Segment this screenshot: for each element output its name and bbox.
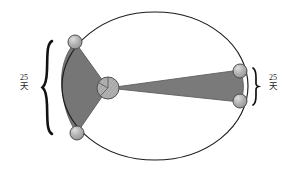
label-left-duration: 25 天 bbox=[12, 74, 36, 91]
sun bbox=[97, 77, 119, 99]
planet-top-left bbox=[68, 35, 82, 49]
planet-bottom-left bbox=[70, 126, 84, 140]
planet-bottom-right bbox=[233, 94, 247, 108]
left-brace bbox=[43, 41, 53, 134]
label-right-duration: 25 天 bbox=[262, 74, 284, 91]
far-sector bbox=[108, 70, 243, 102]
right-brace bbox=[253, 68, 259, 105]
figure-canvas: 25 天 25 天 bbox=[0, 0, 287, 172]
label-right-unit: 天 bbox=[262, 82, 284, 91]
planet-top-right bbox=[233, 64, 247, 78]
kepler-equal-areas-diagram bbox=[0, 0, 287, 172]
label-left-unit: 天 bbox=[12, 82, 36, 91]
